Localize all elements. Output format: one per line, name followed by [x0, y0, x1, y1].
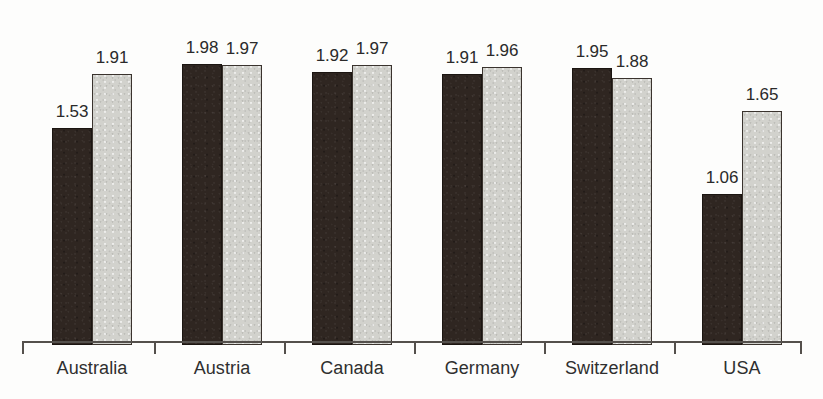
plot-area: 1.531.911.981.971.921.971.911.961.951.88…: [0, 0, 823, 345]
bar-chart: 1.531.911.981.971.921.971.911.961.951.88…: [0, 0, 823, 399]
bar-usa-dark[interactable]: [702, 194, 742, 345]
bar-usa-light[interactable]: [742, 111, 782, 345]
category-label-austria: Austria: [152, 358, 292, 379]
x-axis-tick-2: [284, 341, 286, 354]
bar-australia-dark[interactable]: [52, 128, 92, 345]
bar-austria-light[interactable]: [222, 65, 262, 345]
x-axis-tick-1: [154, 341, 156, 354]
x-axis-tick-0: [22, 341, 24, 354]
bar-canada-light[interactable]: [352, 65, 392, 345]
bar-group-austria: [182, 0, 262, 345]
bar-group-usa: [702, 0, 782, 345]
category-label-canada: Canada: [282, 358, 422, 379]
bar-group-australia: [52, 0, 132, 345]
category-label-usa: USA: [672, 358, 812, 379]
bar-switzerland-light[interactable]: [612, 78, 652, 345]
bar-group-switzerland: [572, 0, 652, 345]
x-axis-tick-5: [674, 341, 676, 354]
x-axis-tick-3: [414, 341, 416, 354]
category-label-australia: Australia: [22, 358, 162, 379]
bar-australia-light[interactable]: [92, 74, 132, 345]
bar-group-germany: [442, 0, 522, 345]
bar-germany-dark[interactable]: [442, 74, 482, 345]
category-label-switzerland: Switzerland: [542, 358, 682, 379]
category-label-group: AustraliaAustriaCanadaGermanySwitzerland…: [0, 358, 823, 388]
x-axis-tick-4: [544, 341, 546, 354]
bar-germany-light[interactable]: [482, 67, 522, 345]
bar-group-canada: [312, 0, 392, 345]
bar-austria-dark[interactable]: [182, 64, 222, 345]
bar-switzerland-dark[interactable]: [572, 68, 612, 345]
category-label-germany: Germany: [412, 358, 552, 379]
x-axis-tick-6: [800, 341, 802, 354]
bar-canada-dark[interactable]: [312, 72, 352, 345]
x-axis-line: [22, 341, 800, 343]
